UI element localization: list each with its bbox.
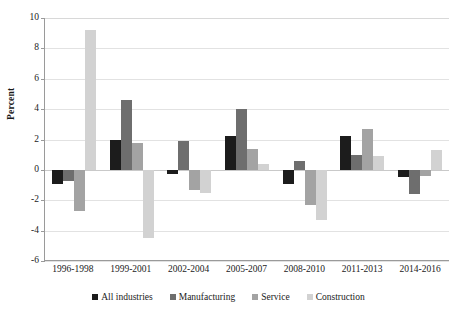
y-tick-label: 10: [30, 13, 40, 23]
y-tick-label: 0: [34, 165, 39, 175]
bar-slot: [225, 18, 236, 260]
legend-item: Manufacturing: [170, 292, 235, 302]
bar-manufacturing: [409, 170, 420, 194]
x-axis-label: 1999-2001: [102, 264, 160, 274]
bar-slot: [143, 18, 154, 260]
y-tick-label: 2: [34, 135, 39, 145]
legend-label: Construction: [316, 292, 365, 302]
bar-slot: [351, 18, 362, 260]
bar-service: [247, 149, 258, 170]
y-axis-title: Percent: [6, 88, 16, 120]
bar-slot: [362, 18, 373, 260]
bar-slot: [283, 18, 294, 260]
bar-slot: [74, 18, 85, 260]
bar-group: [218, 18, 276, 260]
legend-item: Service: [252, 292, 290, 302]
bar-group: [45, 18, 103, 260]
bar-construction: [85, 30, 96, 170]
legend-item: Construction: [307, 292, 365, 302]
legend-swatch-icon: [170, 294, 176, 300]
y-tick-label: 6: [34, 74, 39, 84]
bar-slot: [63, 18, 74, 260]
bar-construction: [431, 150, 442, 170]
x-axis-label: 2014-2016: [391, 264, 449, 274]
bar-slot: [340, 18, 351, 260]
bar-service: [132, 143, 143, 170]
bar-service: [305, 170, 316, 205]
bar-all-industries: [110, 140, 121, 170]
bar-slot: [52, 18, 63, 260]
legend-swatch-icon: [307, 294, 313, 300]
bar-manufacturing: [63, 170, 74, 181]
bar-construction: [373, 156, 384, 170]
bar-all-industries: [225, 136, 236, 169]
bar-slot: [258, 18, 269, 260]
x-axis-labels: 1996-19981999-20012002-20042005-20072008…: [44, 264, 449, 274]
x-axis-label: 2011-2013: [333, 264, 391, 274]
legend-label: All industries: [101, 292, 152, 302]
bar-slot: [409, 18, 420, 260]
x-axis-label: 2002-2004: [160, 264, 218, 274]
x-axis-label: 2008-2010: [275, 264, 333, 274]
bar-slot: [305, 18, 316, 260]
legend-swatch-icon: [252, 294, 258, 300]
bar-groups: [45, 18, 449, 260]
bar-slot: [85, 18, 96, 260]
y-tick-mark: [41, 261, 45, 262]
bar-slot: [121, 18, 132, 260]
bar-construction: [200, 170, 211, 193]
gridline: [45, 261, 449, 262]
bar-service: [420, 170, 431, 176]
bar-slot: [178, 18, 189, 260]
bar-service: [189, 170, 200, 190]
bar-group: [276, 18, 334, 260]
bar-slot: [420, 18, 431, 260]
legend-label: Service: [261, 292, 290, 302]
x-axis-label: 2005-2007: [218, 264, 276, 274]
bar-construction: [258, 164, 269, 170]
bar-construction: [316, 170, 327, 220]
bar-manufacturing: [121, 100, 132, 170]
legend-label: Manufacturing: [179, 292, 235, 302]
bar-group: [391, 18, 449, 260]
bar-slot: [373, 18, 384, 260]
bar-service: [74, 170, 85, 211]
plot-area: 1086420-2-4-6: [44, 18, 449, 261]
bar-all-industries: [398, 170, 409, 178]
legend-swatch-icon: [92, 294, 98, 300]
bar-slot: [200, 18, 211, 260]
bar-all-industries: [167, 170, 178, 175]
y-tick-label: -6: [31, 256, 39, 266]
y-tick-label: 4: [34, 104, 39, 114]
chart-legend: All industriesManufacturingServiceConstr…: [0, 292, 457, 302]
bar-slot: [247, 18, 258, 260]
bar-manufacturing: [351, 155, 362, 170]
bar-construction: [143, 170, 154, 238]
bar-group: [103, 18, 161, 260]
bar-service: [362, 129, 373, 170]
bar-slot: [398, 18, 409, 260]
bar-group: [160, 18, 218, 260]
bar-manufacturing: [236, 109, 247, 170]
bar-manufacturing: [294, 161, 305, 170]
y-tick-label: 8: [34, 44, 39, 54]
y-tick-label: -2: [31, 196, 39, 206]
y-tick-label: -4: [31, 226, 39, 236]
x-axis-label: 1996-1998: [44, 264, 102, 274]
bar-slot: [316, 18, 327, 260]
bar-slot: [189, 18, 200, 260]
bar-all-industries: [340, 136, 351, 169]
bar-group: [334, 18, 392, 260]
bar-slot: [110, 18, 121, 260]
bar-chart: Percent 1086420-2-4-6 1996-19981999-2001…: [0, 0, 457, 321]
bar-slot: [132, 18, 143, 260]
bar-all-industries: [283, 170, 294, 184]
bar-slot: [294, 18, 305, 260]
bar-slot: [167, 18, 178, 260]
bar-slot: [431, 18, 442, 260]
legend-item: All industries: [92, 292, 152, 302]
bar-slot: [236, 18, 247, 260]
bar-all-industries: [52, 170, 63, 184]
bar-manufacturing: [178, 141, 189, 170]
